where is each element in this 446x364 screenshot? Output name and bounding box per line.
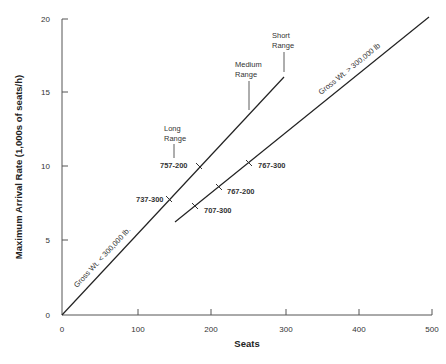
annotation-short-range: Range xyxy=(272,41,294,50)
series-label-light: Gross Wt. < 300,000 lb. xyxy=(72,225,132,289)
annotation-short-range: Short xyxy=(272,31,291,40)
y-tick-label: 5 xyxy=(46,236,51,245)
x-tick-label: 400 xyxy=(352,325,366,334)
chart: 20 15 10 5 0 0 100 200 300 400 500 Seats… xyxy=(0,0,446,364)
point-label-767-200: 767-200 xyxy=(227,187,255,196)
x-axis xyxy=(62,309,432,315)
x-tick-label: 300 xyxy=(279,325,293,334)
annotation-medium-range: Medium xyxy=(235,60,262,69)
x-axis-title: Seats xyxy=(234,338,259,349)
point-label-757-200: 757-200 xyxy=(160,161,188,170)
annotation-medium-range: Range xyxy=(235,70,257,79)
y-axis xyxy=(62,19,68,315)
y-tick-label: 20 xyxy=(41,15,50,24)
point-label-707-300: 707-300 xyxy=(204,206,232,215)
annotation-long-range: Range xyxy=(164,134,186,143)
point-label-737-300: 737-300 xyxy=(136,195,164,204)
y-tick-label: 10 xyxy=(41,162,50,171)
annotation-long-range: Long xyxy=(164,124,181,133)
series-label-heavy: Gross Wt. > 300,000 lb xyxy=(317,41,382,96)
point-label-767-300: 767-300 xyxy=(258,161,286,170)
x-tick-label: 500 xyxy=(425,325,439,334)
x-tick-label: 200 xyxy=(204,325,218,334)
y-tick-label: 15 xyxy=(41,88,50,97)
y-tick-label: 0 xyxy=(46,311,51,320)
x-tick-label: 0 xyxy=(60,325,65,334)
series-line-light-aircraft xyxy=(62,77,284,315)
y-axis-title: Maximum Arrival Rate (1,000s of seats/h) xyxy=(13,75,24,259)
x-tick-label: 100 xyxy=(131,325,145,334)
series-line-heavy-aircraft xyxy=(175,17,429,222)
